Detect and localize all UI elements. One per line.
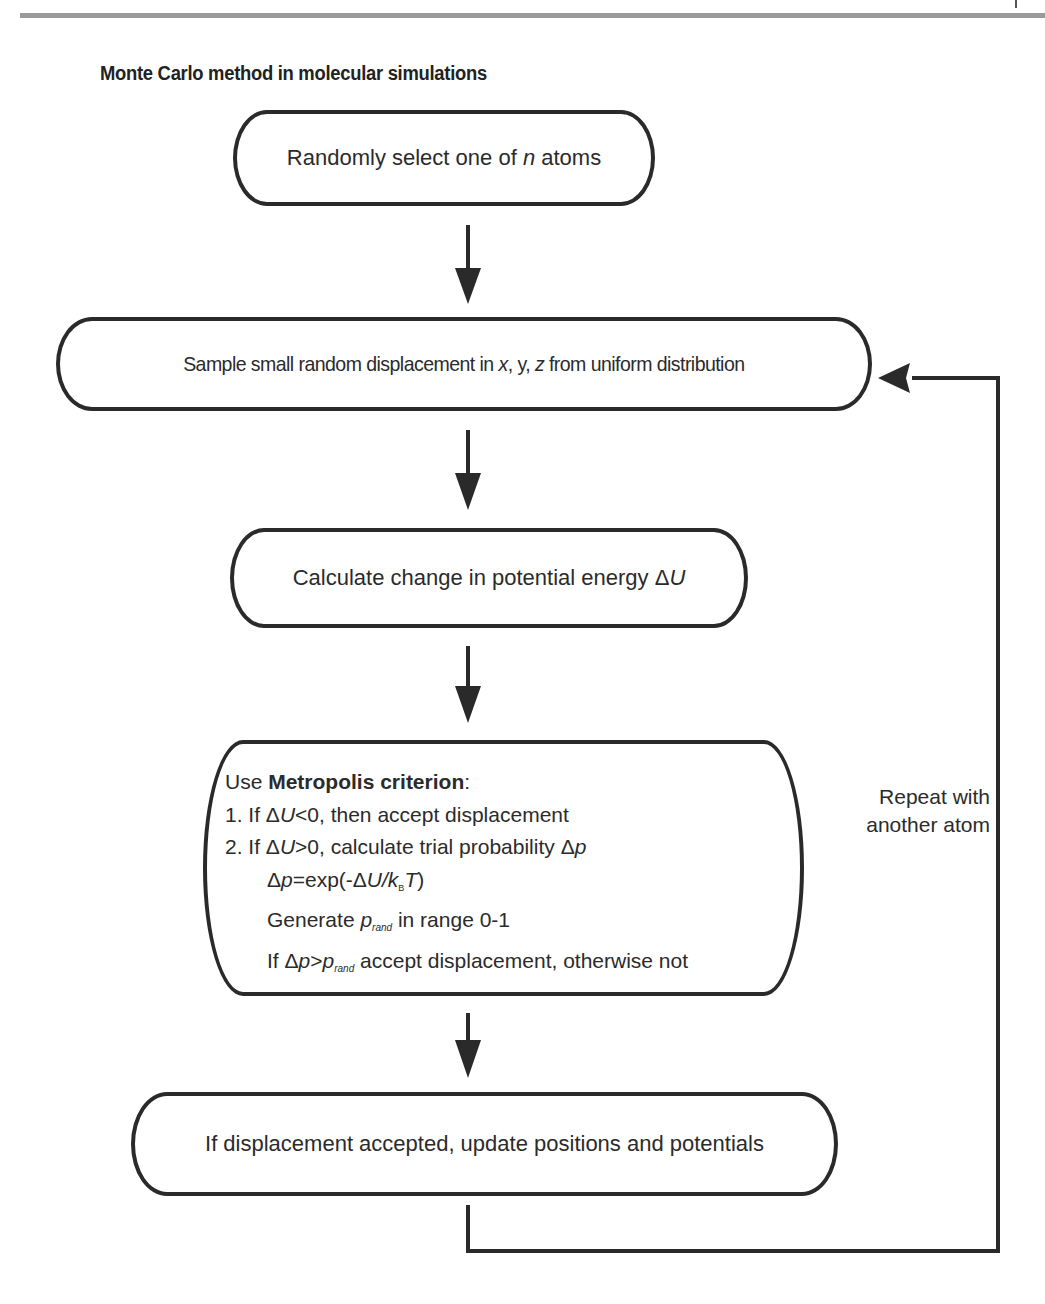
metropolis-accept-test: If Δp>prand accept displacement, otherwi…	[225, 945, 688, 986]
metropolis-formula: Δp=exp(-ΔU/kBT)	[225, 864, 688, 905]
step-update-positions-text: If displacement accepted, update positio…	[205, 1131, 764, 1157]
step-select-atom: Randomly select one of n atoms	[233, 110, 655, 206]
loop-label-line-2: another atom	[838, 811, 990, 839]
arrow-sample-to-energy	[455, 430, 481, 510]
step-calculate-energy: Calculate change in potential energy ΔU	[230, 528, 748, 628]
loop-label-line-1: Repeat with	[838, 783, 990, 811]
step-sample-displacement-text: Sample small random displacement in x, y…	[183, 352, 744, 376]
metropolis-heading: Use Metropolis criterion:	[225, 766, 688, 799]
step-calculate-energy-text: Calculate change in potential energy ΔU	[293, 565, 686, 591]
step-sample-displacement: Sample small random displacement in x, y…	[56, 317, 872, 411]
metropolis-rule-2: 2. If ΔU>0, calculate trial probability …	[225, 831, 688, 864]
arrow-metropolis-to-update	[455, 1013, 481, 1078]
metropolis-rule-1: 1. If ΔU<0, then accept displacement	[225, 799, 688, 832]
step-metropolis-criterion: Use Metropolis criterion: 1. If ΔU<0, th…	[203, 740, 804, 996]
step-update-positions: If displacement accepted, update positio…	[131, 1092, 838, 1196]
loop-label: Repeat with another atom	[838, 783, 990, 839]
metropolis-generate: Generate prand in range 0-1	[225, 904, 688, 945]
arrow-energy-to-metropolis	[455, 646, 481, 723]
step-select-atom-text: Randomly select one of n atoms	[287, 145, 601, 171]
arrow-select-to-sample	[455, 225, 481, 304]
metropolis-text: Use Metropolis criterion: 1. If ΔU<0, th…	[225, 766, 688, 985]
